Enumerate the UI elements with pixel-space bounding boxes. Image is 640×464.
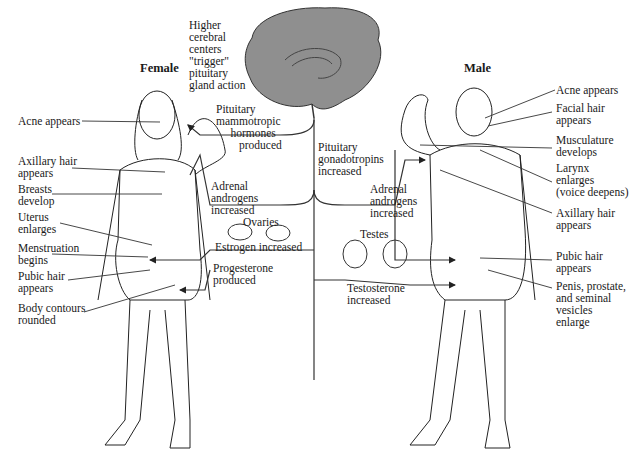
diagram-artwork <box>0 0 640 464</box>
female-figure <box>98 91 225 448</box>
male-title: Male <box>464 61 491 76</box>
estrogen-label: Estrogen increased <box>215 241 302 253</box>
adrenal-androgens-male-label: Adrenal androgens increased <box>370 183 417 219</box>
pituitary-gonadotropins-label: Pituitary gonadotropins increased <box>318 141 384 177</box>
male-label-facial-hair: Facial hair appears <box>556 102 605 126</box>
testosterone-label: Testosterone increased <box>347 282 405 306</box>
female-label-pubic-hair: Pubic hair appears <box>18 270 65 294</box>
female-label-axillary-hair: Axillary hair appears <box>18 155 77 179</box>
adrenal-androgens-female-label: Adrenal androgens increased <box>211 180 258 216</box>
pituitary-mammotropic-label: Pituitary mammotropic hormones produced <box>216 103 282 151</box>
female-label-acne: Acne appears <box>18 115 80 127</box>
male-label-genitals: Penis, prostate, and seminal vesicles en… <box>556 280 626 328</box>
male-label-musculature: Musculature develops <box>556 134 613 158</box>
male-label-larynx: Larynx enlarges (voice deepens) <box>556 162 628 198</box>
male-figure <box>401 88 535 448</box>
female-label-body-contours: Body contours rounded <box>18 302 85 326</box>
male-label-axillary-hair: Axillary hair appears <box>556 207 615 231</box>
ovaries-label: Ovaries <box>243 216 279 228</box>
female-label-menstruation: Menstruation begins <box>18 242 79 266</box>
male-label-pubic-hair: Pubic hair appears <box>556 250 603 274</box>
testes-label: Testes <box>360 228 389 240</box>
progesterone-label: Progesterone produced <box>213 262 273 286</box>
female-label-uterus: Uterus enlarges <box>18 211 56 235</box>
brain-illustration <box>245 8 381 118</box>
female-label-breasts: Breasts develop <box>18 183 54 207</box>
brain-caption: Higher cerebral centers "trigger" pituit… <box>189 19 246 91</box>
female-title: Female <box>140 61 179 76</box>
male-label-acne: Acne appears <box>556 84 618 96</box>
